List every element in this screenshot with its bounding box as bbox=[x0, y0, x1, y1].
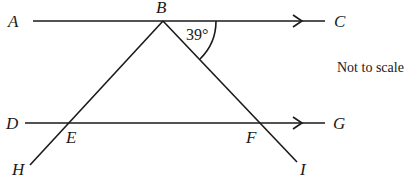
scale-note: Not to scale bbox=[337, 60, 404, 75]
geometry-diagram: A B C D E F G H I 39° Not to scale bbox=[0, 0, 416, 183]
label-g: G bbox=[333, 114, 345, 133]
label-c: C bbox=[334, 12, 346, 31]
line-bi bbox=[163, 21, 297, 162]
label-a: A bbox=[7, 12, 19, 31]
label-f: F bbox=[245, 128, 257, 147]
angle-label: 39° bbox=[186, 26, 208, 43]
label-h: H bbox=[11, 160, 26, 179]
label-i: I bbox=[299, 160, 307, 179]
label-e: E bbox=[65, 128, 77, 147]
label-d: D bbox=[5, 114, 19, 133]
line-bh bbox=[30, 21, 163, 165]
label-b: B bbox=[156, 0, 167, 17]
